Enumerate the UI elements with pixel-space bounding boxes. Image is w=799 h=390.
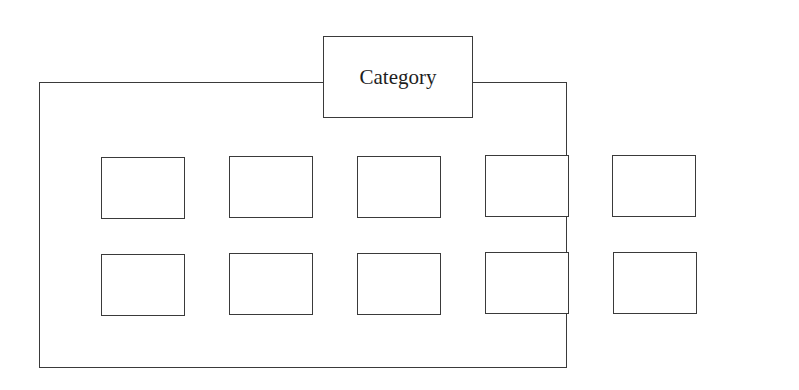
item-box-r2-c3 (357, 253, 441, 315)
item-box-r1-c2 (229, 156, 313, 218)
item-box-r1-c3 (357, 156, 441, 218)
category-label-box: Category (323, 36, 473, 118)
item-box-r2-c4 (485, 252, 569, 314)
item-box-r1-c4 (485, 155, 569, 217)
item-box-r1-c5 (612, 155, 696, 217)
item-box-r2-c2 (229, 253, 313, 315)
category-label: Category (360, 65, 437, 90)
item-box-r1-c1 (101, 157, 185, 219)
item-box-r2-c5 (613, 252, 697, 314)
category-container-frame (39, 82, 567, 368)
item-box-r2-c1 (101, 254, 185, 316)
